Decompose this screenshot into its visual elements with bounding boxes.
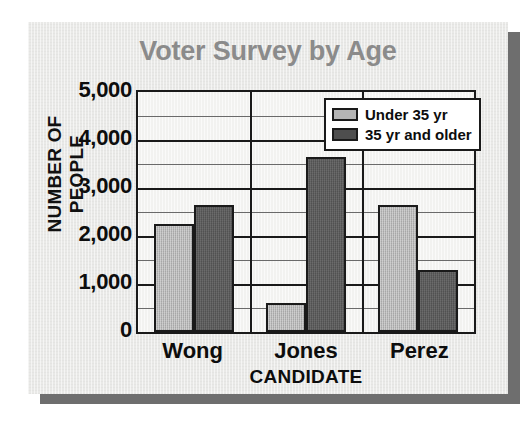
x-axis-title: CANDIDATE <box>136 366 476 388</box>
chart-page: Voter Survey by Age NUMBER OF PEOPLE 5,0… <box>0 0 531 424</box>
bar <box>194 205 234 332</box>
chart-card: Voter Survey by Age NUMBER OF PEOPLE 5,0… <box>28 22 508 394</box>
y-axis-tick-label: 0 <box>44 317 132 343</box>
legend-swatch-icon <box>332 108 358 121</box>
legend-swatch-icon <box>332 128 358 141</box>
legend-entry: Under 35 yr <box>332 104 472 124</box>
y-axis-tick-labels: 5,0004,0003,0002,0001,0000 <box>36 90 132 330</box>
chart-legend: Under 35 yr35 yr and older <box>324 98 481 151</box>
y-axis-tick-label: 2,000 <box>44 221 132 247</box>
legend-entry: 35 yr and older <box>332 124 472 144</box>
legend-label: Under 35 yr <box>365 106 448 123</box>
bar <box>378 205 418 332</box>
chart-title: Voter Survey by Age <box>28 36 508 67</box>
y-axis-tick-label: 3,000 <box>44 173 132 199</box>
y-axis-tick-label: 1,000 <box>44 269 132 295</box>
y-axis-tick-label: 4,000 <box>44 125 132 151</box>
bar <box>266 303 306 332</box>
y-axis-tick-label: 5,000 <box>44 77 132 103</box>
bar <box>306 157 346 332</box>
bar <box>154 224 194 332</box>
legend-label: 35 yr and older <box>365 126 472 143</box>
bar <box>418 270 458 332</box>
